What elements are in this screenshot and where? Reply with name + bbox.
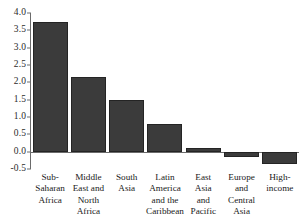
x-axis-label: East Asia and Pacific — [184, 172, 222, 218]
y-axis-tick-label: 3.5 — [14, 26, 26, 36]
bar — [147, 124, 182, 152]
bar — [33, 22, 68, 152]
y-axis-tick-label: 1.5 — [14, 95, 26, 105]
y-axis: 4.03.53.02.52.01.51.00.50.0-0.5 — [0, 0, 32, 175]
x-axis-label: South Asia — [108, 172, 146, 195]
bar — [262, 152, 297, 164]
plot-area — [31, 13, 299, 169]
x-axis-label: High- income — [261, 172, 299, 195]
y-axis-tick-label: -0.5 — [11, 164, 26, 174]
bar-chart: 4.03.53.02.52.01.51.00.50.0-0.5 Sub- Sah… — [0, 0, 302, 220]
bar-slot — [184, 13, 222, 169]
bar — [224, 152, 259, 157]
bar — [109, 100, 144, 152]
x-axis-label: Middle East and North Africa — [69, 172, 107, 218]
x-axis-label: Sub- Saharan Africa — [31, 172, 69, 206]
y-axis-tick-label: 2.5 — [14, 60, 26, 70]
bar-slot — [261, 13, 299, 169]
bar-slot — [31, 13, 69, 169]
bar — [71, 77, 106, 152]
x-axis-label: Europe and Central Asia — [222, 172, 260, 218]
bar-slot — [146, 13, 184, 169]
y-axis-tick-label: 2.0 — [14, 78, 26, 88]
bar — [186, 148, 221, 151]
y-axis-tick-label: 1.0 — [14, 112, 26, 122]
bar-slot — [108, 13, 146, 169]
y-axis-tick-label: 0.5 — [14, 130, 26, 140]
y-axis-tick-label: 4.0 — [14, 8, 26, 18]
x-axis-label: Latin America and the Caribbean — [146, 172, 184, 218]
y-axis-tick-label: 3.0 — [14, 43, 26, 53]
bar-slot — [69, 13, 107, 169]
y-axis-tick-label: 0.0 — [14, 147, 26, 157]
x-axis-category-labels: Sub- Saharan AfricaMiddle East and North… — [31, 172, 299, 220]
bar-slot — [222, 13, 260, 169]
